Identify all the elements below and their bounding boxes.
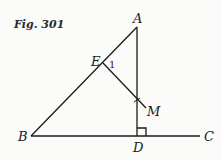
point-label-c: C [204,129,214,144]
point-label-a: A [132,11,142,26]
geometry-figure: Fig. 301 A B C D E M 1 [0,0,221,160]
point-label-b: B [17,129,28,144]
figure-caption: Fig. 301 [13,18,64,31]
right-angle-mark-d [137,128,146,136]
point-label-d: D [132,140,144,155]
angle-label-1: 1 [109,59,115,70]
point-label-e: E [90,54,101,69]
point-label-m: M [146,104,161,119]
